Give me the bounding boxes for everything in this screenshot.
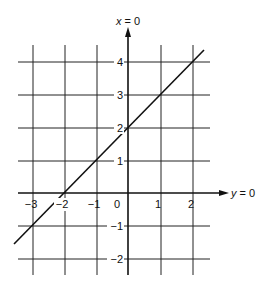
vertical-axis-label: x = 0	[115, 15, 140, 27]
x-tick-label: 0	[114, 198, 120, 210]
data-line	[14, 50, 204, 244]
graph: 4 3 2 1 −1 −2 −3 −2 −1 0 1 2 x = 0 y = 0	[0, 0, 265, 292]
y-tick-label: −2	[110, 253, 123, 265]
y-tick-label: 4	[117, 56, 123, 68]
arrow-up-icon	[125, 27, 131, 37]
y-tick-label: 2	[117, 122, 123, 134]
x-tick-label: 2	[188, 198, 194, 210]
y-tick-labels: 4 3 2 1 −1 −2	[107, 55, 124, 265]
x-tick-labels: −3 −2 −1 0 1 2	[25, 198, 194, 211]
y-tick-label: −1	[110, 220, 123, 232]
y-tick-label: 3	[117, 89, 123, 101]
x-tick-label: −2	[56, 198, 69, 210]
y-tick-label: 1	[117, 155, 123, 167]
horizontal-axis-label: y = 0	[230, 187, 255, 199]
arrow-right-icon	[219, 190, 229, 196]
x-tick-label: −3	[25, 198, 38, 210]
x-tick-label: 1	[155, 198, 161, 210]
x-tick-label: −1	[88, 198, 101, 210]
